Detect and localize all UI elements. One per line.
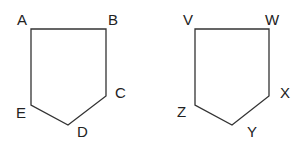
vertex-label-z: Z [177,103,186,120]
vertex-label-c: C [115,84,126,101]
diagram-canvas: A B C D E V W X Y Z [0,0,300,150]
pentagon-vwxyz-outline [195,29,269,125]
vertex-label-b: B [108,11,118,28]
vertex-label-w: W [265,11,280,28]
vertex-label-e: E [16,104,26,121]
pentagon-vwxyz: V W X Y Z [177,11,290,140]
vertex-label-a: A [17,11,27,28]
vertex-label-d: D [77,123,88,140]
vertex-label-x: X [280,84,290,101]
vertex-label-y: Y [247,123,257,140]
vertex-label-v: V [183,11,193,28]
pentagon-abcde-outline [31,29,106,125]
pentagon-abcde: A B C D E [16,11,126,140]
